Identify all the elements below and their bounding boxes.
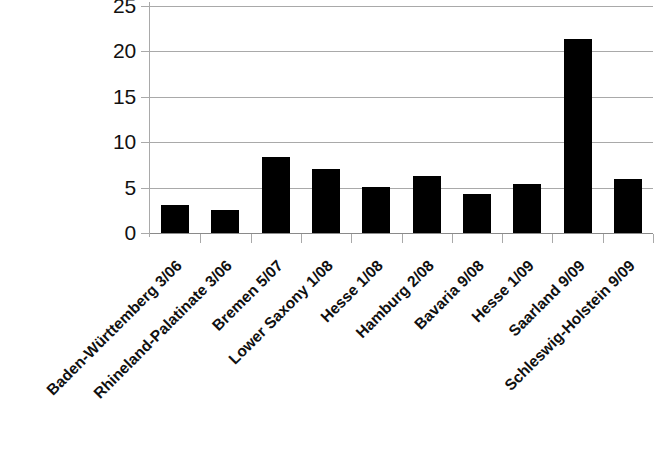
bar: [312, 169, 340, 233]
bar: [614, 179, 642, 233]
bar: [362, 187, 390, 233]
x-axis-category-label: Schleswig-Holstein 9/09: [444, 256, 639, 451]
bar: [513, 184, 541, 233]
x-axis-category-label: Hesse 1/08: [192, 256, 387, 451]
y-axis-tick-label: 20: [78, 40, 136, 61]
y-axis-tick: [141, 51, 150, 52]
x-axis-tick: [251, 234, 252, 243]
x-axis-category-label: Bremen 5/07: [92, 256, 287, 451]
x-axis-category-label: Hamburg 2/08: [243, 256, 438, 451]
x-axis-category-label: Lower Saxony 1/08: [142, 256, 337, 451]
y-axis-tick: [141, 142, 150, 143]
x-axis-category-label: Hesse 1/09: [343, 256, 538, 451]
y-axis-tick-labels: 0510152025: [78, 0, 136, 245]
x-axis-category-label: Rhineland-Palatinate 3/06: [42, 256, 237, 451]
x-axis-tick: [502, 234, 503, 243]
y-axis-tick-label: 5: [78, 177, 136, 198]
y-axis-tick: [141, 97, 150, 98]
bar: [161, 205, 189, 233]
bar: [262, 157, 290, 233]
y-axis-tick-label: 10: [78, 131, 136, 152]
bar: [564, 39, 592, 233]
x-axis-tick: [301, 234, 302, 243]
y-axis-tick-label: 25: [78, 0, 136, 16]
x-axis-tick: [402, 234, 403, 243]
bar: [413, 176, 441, 233]
x-axis-category-label: Saarland 9/09: [394, 256, 589, 451]
x-axis-tick: [200, 234, 201, 243]
x-axis-category-labels: Baden-Württemberg 3/06Rhineland-Palatina…: [0, 234, 653, 451]
x-axis-tick: [351, 234, 352, 243]
x-axis-tick: [452, 234, 453, 243]
y-axis-tick: [141, 6, 150, 7]
y-axis-tick: [141, 188, 150, 189]
x-axis-tick: [552, 234, 553, 243]
bar: [211, 210, 239, 233]
bar: [463, 194, 491, 233]
bars-layer: [150, 0, 653, 234]
y-axis-tick-label: 15: [78, 86, 136, 107]
x-axis-category-label: Bavaria 9/08: [293, 256, 488, 451]
x-axis-tick: [603, 234, 604, 243]
y-axis-tick: [141, 233, 150, 234]
